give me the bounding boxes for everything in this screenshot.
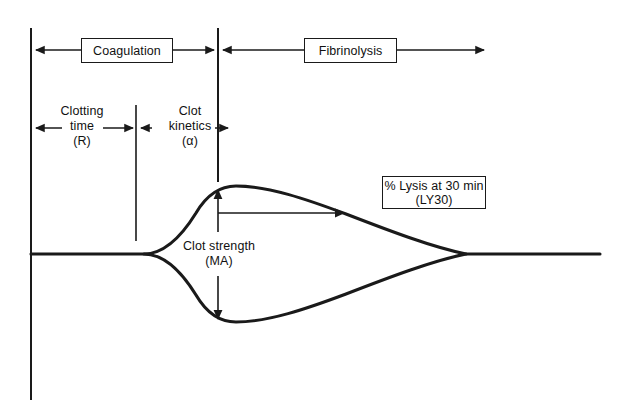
parameter-label-lysis: % Lysis at 30 min (LY30) (382, 176, 486, 209)
parameter-label-clot-kinetics: Clot kinetics (α) (148, 104, 232, 148)
phase-label-coagulation: Coagulation (81, 38, 173, 63)
phase-label-fibrinolysis: Fibrinolysis (304, 38, 397, 63)
parameter-label-clot-strength: Clot strength (MA) (160, 239, 278, 269)
teg-upper-envelope (31, 186, 600, 254)
teg-diagram-canvas: Coagulation Fibrinolysis % Lysis at 30 m… (0, 0, 629, 414)
parameter-label-clotting-time: Clotting time (R) (38, 104, 126, 148)
